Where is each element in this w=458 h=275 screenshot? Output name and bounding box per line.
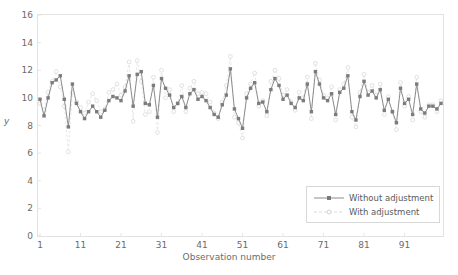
data-point <box>188 86 192 90</box>
data-point <box>66 150 70 154</box>
data-point <box>221 103 224 106</box>
data-point <box>59 74 62 77</box>
legend-item-with-adjustment[interactable]: With adjustment <box>307 205 441 219</box>
data-point <box>293 106 296 109</box>
data-point <box>192 88 195 91</box>
data-point <box>370 84 374 88</box>
data-point <box>273 68 277 72</box>
data-point <box>249 87 252 90</box>
data-point <box>374 96 377 99</box>
data-point <box>310 110 313 113</box>
data-point <box>334 113 337 116</box>
data-point <box>253 71 257 75</box>
data-point <box>54 70 58 74</box>
data-point <box>99 110 103 114</box>
data-point <box>127 60 131 64</box>
series-line-without-adjustment <box>40 69 441 128</box>
data-point <box>338 91 341 94</box>
data-point <box>156 116 159 119</box>
data-point <box>148 103 151 106</box>
data-point <box>269 79 273 83</box>
legend-item-without-adjustment[interactable]: Without adjustment <box>307 191 441 205</box>
data-point <box>99 116 102 119</box>
data-point <box>382 113 386 117</box>
data-point <box>208 100 212 104</box>
data-point <box>225 93 228 96</box>
data-point <box>95 110 98 113</box>
data-point <box>172 110 176 114</box>
data-point <box>435 107 438 110</box>
data-point <box>144 102 147 105</box>
data-point <box>314 61 318 65</box>
data-point <box>168 93 171 96</box>
x-tick-label: 31 <box>156 240 167 250</box>
data-point <box>160 77 163 80</box>
data-point <box>160 68 164 72</box>
data-point <box>83 111 87 115</box>
data-point <box>204 99 207 102</box>
data-point <box>152 75 156 79</box>
data-point <box>387 98 390 101</box>
data-point <box>423 115 427 119</box>
data-point <box>217 116 220 119</box>
data-point <box>233 115 237 119</box>
x-axis-label: Observation number <box>0 252 458 262</box>
data-point <box>249 82 253 86</box>
y-tick-label: 6 <box>0 148 33 158</box>
data-point <box>111 95 114 98</box>
data-point <box>358 95 361 98</box>
data-point <box>350 110 353 113</box>
x-tick-label: 51 <box>237 240 248 250</box>
data-point <box>95 99 99 103</box>
data-point <box>395 128 399 132</box>
data-point <box>354 118 357 121</box>
data-point <box>285 93 288 96</box>
data-point <box>208 106 211 109</box>
legend-label-with-adjustment: With adjustment <box>349 207 419 217</box>
data-point <box>136 73 139 76</box>
data-point <box>297 90 301 94</box>
data-point <box>350 115 354 119</box>
data-point <box>172 106 175 109</box>
data-point <box>306 82 309 85</box>
data-point <box>322 96 325 99</box>
data-point <box>427 104 430 107</box>
data-point <box>281 98 284 101</box>
data-point <box>354 125 358 129</box>
data-point <box>107 90 111 94</box>
legend-label-without-adjustment: Without adjustment <box>349 193 433 203</box>
y-tick-label: 8 <box>0 121 33 131</box>
data-point <box>147 110 151 114</box>
data-point <box>75 102 78 105</box>
data-point <box>200 95 203 98</box>
data-point <box>399 87 402 90</box>
data-point <box>407 98 410 101</box>
data-point <box>439 102 442 105</box>
chart-legend: Without adjustment With adjustment <box>306 186 440 223</box>
data-point <box>285 88 289 92</box>
data-point <box>415 82 418 85</box>
data-point <box>91 104 94 107</box>
data-point <box>115 96 118 99</box>
data-point <box>362 72 366 76</box>
data-point <box>346 66 350 70</box>
data-point <box>237 117 240 120</box>
data-point <box>180 95 183 98</box>
y-tick-label: 2 <box>0 203 33 213</box>
data-point <box>168 88 172 92</box>
x-tick-label: 11 <box>75 240 86 250</box>
data-point <box>184 110 188 114</box>
data-point <box>366 93 369 96</box>
data-point <box>431 104 434 107</box>
data-point <box>184 106 187 109</box>
data-point <box>107 99 110 102</box>
data-point <box>71 82 74 85</box>
y-tick-label: 12 <box>0 65 33 75</box>
data-point <box>419 107 422 110</box>
data-point <box>164 87 167 90</box>
data-point <box>164 96 168 100</box>
data-point <box>330 85 334 89</box>
data-point <box>395 121 398 124</box>
data-point <box>302 99 305 102</box>
data-point <box>257 102 260 105</box>
